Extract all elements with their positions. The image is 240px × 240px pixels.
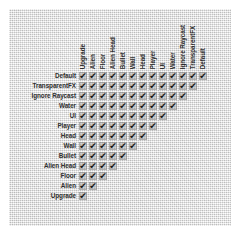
matrix-checkbox[interactable]: ✔ bbox=[128, 141, 138, 151]
matrix-checkbox[interactable]: ✔ bbox=[108, 101, 118, 111]
matrix-checkbox[interactable]: ✔ bbox=[98, 111, 108, 121]
column-header-label: Wall bbox=[130, 56, 136, 69]
matrix-checkbox[interactable]: ✔ bbox=[118, 71, 128, 81]
matrix-checkbox[interactable]: ✔ bbox=[138, 101, 148, 111]
matrix-checkbox[interactable]: ✔ bbox=[178, 71, 188, 81]
matrix-checkbox[interactable]: ✔ bbox=[148, 81, 158, 91]
matrix-checkbox[interactable]: ✔ bbox=[88, 151, 98, 161]
matrix-checkbox[interactable]: ✔ bbox=[108, 71, 118, 81]
matrix-checkbox[interactable]: ✔ bbox=[88, 141, 98, 151]
matrix-checkbox[interactable]: ✔ bbox=[88, 161, 98, 171]
matrix-checkbox[interactable]: ✔ bbox=[158, 81, 168, 91]
matrix-checkbox[interactable]: ✔ bbox=[118, 81, 128, 91]
matrix-checkbox[interactable]: ✔ bbox=[98, 141, 108, 151]
checkmark-icon: ✔ bbox=[98, 141, 108, 151]
matrix-checkbox[interactable]: ✔ bbox=[88, 131, 98, 141]
matrix-checkbox[interactable]: ✔ bbox=[88, 101, 98, 111]
matrix-checkbox[interactable]: ✔ bbox=[138, 81, 148, 91]
matrix-checkbox[interactable]: ✔ bbox=[98, 101, 108, 111]
matrix-checkbox[interactable]: ✔ bbox=[98, 171, 108, 181]
matrix-checkbox[interactable]: ✔ bbox=[148, 71, 158, 81]
matrix-checkbox[interactable]: ✔ bbox=[138, 111, 148, 121]
matrix-checkbox[interactable]: ✔ bbox=[148, 121, 158, 131]
matrix-checkbox[interactable]: ✔ bbox=[78, 161, 88, 171]
checkmark-icon: ✔ bbox=[98, 161, 108, 171]
matrix-checkbox[interactable]: ✔ bbox=[168, 91, 178, 101]
matrix-checkbox[interactable]: ✔ bbox=[78, 151, 88, 161]
matrix-checkbox[interactable]: ✔ bbox=[98, 121, 108, 131]
matrix-checkbox[interactable]: ✔ bbox=[168, 71, 178, 81]
matrix-checkbox[interactable]: ✔ bbox=[148, 111, 158, 121]
matrix-checkbox[interactable]: ✔ bbox=[168, 81, 178, 91]
checkmark-icon: ✔ bbox=[168, 71, 178, 81]
matrix-checkbox[interactable]: ✔ bbox=[198, 71, 208, 81]
matrix-checkbox[interactable]: ✔ bbox=[128, 71, 138, 81]
matrix-checkbox[interactable]: ✔ bbox=[128, 121, 138, 131]
matrix-checkbox[interactable]: ✔ bbox=[88, 71, 98, 81]
matrix-checkbox[interactable]: ✔ bbox=[98, 131, 108, 141]
matrix-checkbox[interactable]: ✔ bbox=[108, 111, 118, 121]
checkmark-icon: ✔ bbox=[78, 131, 88, 141]
matrix-checkbox[interactable]: ✔ bbox=[188, 71, 198, 81]
matrix-checkbox[interactable]: ✔ bbox=[128, 131, 138, 141]
matrix-checkbox[interactable]: ✔ bbox=[88, 171, 98, 181]
matrix-checkbox[interactable]: ✔ bbox=[78, 171, 88, 181]
matrix-checkbox[interactable]: ✔ bbox=[138, 121, 148, 131]
matrix-checkbox[interactable]: ✔ bbox=[78, 131, 88, 141]
matrix-checkbox[interactable]: ✔ bbox=[78, 121, 88, 131]
matrix-checkbox[interactable]: ✔ bbox=[158, 111, 168, 121]
matrix-checkbox[interactable]: ✔ bbox=[88, 181, 98, 191]
matrix-checkbox[interactable]: ✔ bbox=[98, 161, 108, 171]
matrix-checkbox[interactable]: ✔ bbox=[78, 101, 88, 111]
matrix-checkbox[interactable]: ✔ bbox=[78, 181, 88, 191]
matrix-checkbox[interactable]: ✔ bbox=[118, 141, 128, 151]
matrix-checkbox[interactable]: ✔ bbox=[78, 91, 88, 101]
checkmark-icon: ✔ bbox=[168, 101, 178, 111]
matrix-checkbox[interactable]: ✔ bbox=[108, 141, 118, 151]
matrix-checkbox[interactable]: ✔ bbox=[98, 81, 108, 91]
matrix-checkbox[interactable]: ✔ bbox=[78, 71, 88, 81]
checkmark-icon: ✔ bbox=[178, 81, 188, 91]
matrix-checkbox[interactable]: ✔ bbox=[108, 81, 118, 91]
matrix-checkbox[interactable]: ✔ bbox=[98, 71, 108, 81]
matrix-checkbox[interactable]: ✔ bbox=[128, 91, 138, 101]
matrix-checkbox[interactable]: ✔ bbox=[178, 81, 188, 91]
matrix-checkbox[interactable]: ✔ bbox=[98, 91, 108, 101]
matrix-checkbox[interactable]: ✔ bbox=[128, 111, 138, 121]
matrix-checkbox[interactable]: ✔ bbox=[118, 101, 128, 111]
matrix-checkbox[interactable]: ✔ bbox=[148, 101, 158, 111]
matrix-checkbox[interactable]: ✔ bbox=[108, 131, 118, 141]
matrix-checkbox[interactable]: ✔ bbox=[88, 111, 98, 121]
matrix-checkbox[interactable]: ✔ bbox=[128, 81, 138, 91]
matrix-checkbox[interactable]: ✔ bbox=[108, 121, 118, 131]
matrix-checkbox[interactable]: ✔ bbox=[128, 101, 138, 111]
matrix-checkbox[interactable]: ✔ bbox=[118, 91, 128, 101]
checkmark-icon: ✔ bbox=[178, 71, 188, 81]
matrix-checkbox[interactable]: ✔ bbox=[158, 91, 168, 101]
matrix-checkbox[interactable]: ✔ bbox=[108, 151, 118, 161]
matrix-checkbox[interactable]: ✔ bbox=[118, 131, 128, 141]
matrix-checkbox[interactable]: ✔ bbox=[138, 131, 148, 141]
matrix-checkbox[interactable]: ✔ bbox=[108, 91, 118, 101]
matrix-checkbox[interactable]: ✔ bbox=[88, 81, 98, 91]
matrix-checkbox[interactable]: ✔ bbox=[188, 81, 198, 91]
matrix-checkbox[interactable]: ✔ bbox=[78, 81, 88, 91]
matrix-checkbox[interactable]: ✔ bbox=[168, 101, 178, 111]
matrix-checkbox[interactable]: ✔ bbox=[78, 141, 88, 151]
matrix-checkbox[interactable]: ✔ bbox=[158, 101, 168, 111]
matrix-checkbox[interactable]: ✔ bbox=[138, 71, 148, 81]
matrix-checkbox[interactable]: ✔ bbox=[178, 91, 188, 101]
matrix-checkbox[interactable]: ✔ bbox=[108, 161, 118, 171]
matrix-checkbox[interactable]: ✔ bbox=[158, 71, 168, 81]
matrix-checkbox[interactable]: ✔ bbox=[148, 91, 158, 101]
matrix-checkbox[interactable]: ✔ bbox=[88, 91, 98, 101]
matrix-checkbox[interactable]: ✔ bbox=[138, 91, 148, 101]
matrix-checkbox[interactable]: ✔ bbox=[78, 111, 88, 121]
matrix-checkbox[interactable]: ✔ bbox=[118, 111, 128, 121]
matrix-checkbox[interactable]: ✔ bbox=[98, 151, 108, 161]
matrix-checkbox[interactable]: ✔ bbox=[118, 121, 128, 131]
checkmark-icon: ✔ bbox=[98, 121, 108, 131]
matrix-checkbox[interactable]: ✔ bbox=[118, 151, 128, 161]
matrix-checkbox[interactable]: ✔ bbox=[88, 121, 98, 131]
matrix-checkbox[interactable]: ✔ bbox=[78, 191, 88, 201]
